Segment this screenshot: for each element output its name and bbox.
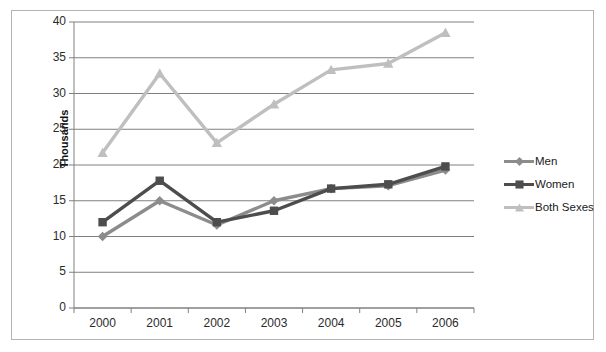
data-point-marker xyxy=(327,184,335,192)
legend-swatch-triangle-icon xyxy=(504,201,534,213)
chart-container: Thousands 0510152025303540 2000200120022… xyxy=(11,10,594,340)
data-point-marker xyxy=(440,28,450,37)
series-line xyxy=(103,33,446,153)
legend-item[interactable]: Women xyxy=(504,172,596,195)
data-point-marker xyxy=(384,180,392,188)
series-men xyxy=(98,165,450,241)
legend-label: Men xyxy=(534,155,557,167)
legend-swatch-square-icon xyxy=(504,178,534,190)
legend-marker-icon xyxy=(515,203,524,212)
data-point-marker xyxy=(155,68,165,77)
legend-swatch-diamond-icon xyxy=(504,155,534,167)
data-point-marker xyxy=(441,162,449,170)
legend-label: Both Sexes xyxy=(534,201,594,213)
series-women xyxy=(98,162,449,226)
legend-item[interactable]: Both Sexes xyxy=(504,195,596,218)
data-point-marker xyxy=(156,177,164,185)
legend-marker-icon xyxy=(515,180,524,189)
data-point-marker xyxy=(98,218,106,226)
legend-item[interactable]: Men xyxy=(504,149,596,172)
chart-legend: MenWomenBoth Sexes xyxy=(504,149,596,218)
series-both-sexes xyxy=(97,28,450,158)
data-point-marker xyxy=(213,218,221,226)
data-point-marker xyxy=(270,207,278,215)
legend-label: Women xyxy=(534,178,574,190)
data-point-marker xyxy=(269,196,279,206)
legend-marker-icon xyxy=(515,157,524,166)
